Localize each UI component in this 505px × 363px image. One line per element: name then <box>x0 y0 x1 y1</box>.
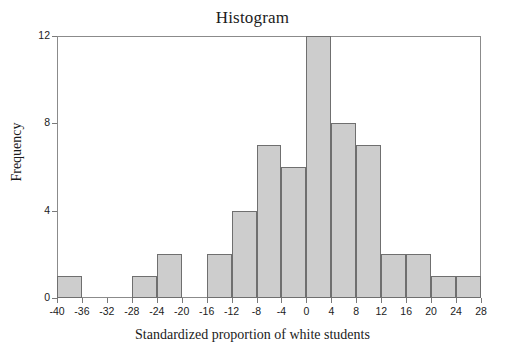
histogram-chart: Histogram 04812 -40-36-32-28-24-20-16-12… <box>0 0 505 363</box>
histogram-bar <box>381 254 406 298</box>
bars-layer <box>57 36 481 298</box>
x-tick-mark <box>406 298 407 303</box>
y-tick-mark <box>52 211 57 212</box>
y-tick-mark <box>52 123 57 124</box>
histogram-bar <box>281 167 306 298</box>
x-tick-mark <box>232 298 233 303</box>
histogram-bar <box>331 123 356 298</box>
histogram-bar <box>207 254 232 298</box>
histogram-bar <box>356 145 381 298</box>
histogram-bar <box>406 254 431 298</box>
x-tick-mark <box>306 298 307 303</box>
histogram-bar <box>232 211 257 298</box>
x-tick-mark <box>481 298 482 303</box>
histogram-bar <box>431 276 456 298</box>
x-tick-mark <box>456 298 457 303</box>
x-tick-mark <box>182 298 183 303</box>
x-tick-mark <box>82 298 83 303</box>
y-tick-label: 0 <box>24 292 50 302</box>
x-tick-mark <box>207 298 208 303</box>
chart-title: Histogram <box>0 8 505 28</box>
x-tick-mark <box>431 298 432 303</box>
x-tick-mark <box>107 298 108 303</box>
histogram-bar <box>157 254 182 298</box>
y-tick-mark <box>52 36 57 37</box>
x-tick-mark <box>157 298 158 303</box>
histogram-bar <box>456 276 481 298</box>
x-tick-mark <box>281 298 282 303</box>
x-axis-title: Standardized proportion of white student… <box>0 327 505 343</box>
histogram-bar <box>132 276 157 298</box>
histogram-bar <box>57 276 82 298</box>
y-tick-label: 8 <box>24 117 50 127</box>
x-tick-mark <box>381 298 382 303</box>
histogram-bar <box>257 145 282 298</box>
x-tick-mark <box>356 298 357 303</box>
x-tick-mark <box>57 298 58 303</box>
y-axis-title: Frequency <box>9 92 25 212</box>
x-tick-mark <box>132 298 133 303</box>
x-tick-mark <box>257 298 258 303</box>
x-tick-mark <box>331 298 332 303</box>
histogram-bar <box>306 36 331 298</box>
y-tick-label: 4 <box>24 205 50 215</box>
x-tick-label: 28 <box>466 305 496 317</box>
y-tick-label: 12 <box>24 30 50 40</box>
